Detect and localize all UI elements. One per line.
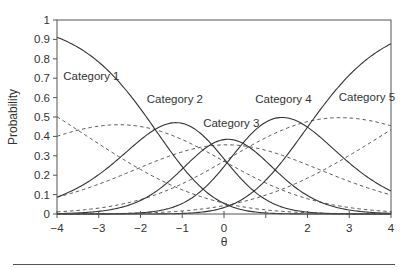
footer-divider — [13, 264, 395, 265]
probability-curves-chart: 00.10.20.30.40.50.60.70.80.91 −4−3−2−102… — [0, 0, 408, 270]
y-tick-label: 0.3 — [34, 150, 50, 162]
category-label-3: Category 3 — [203, 117, 259, 129]
y-tick-label: 0 — [44, 208, 50, 220]
y-tick-label: 0.7 — [34, 72, 50, 84]
x-tick-label: 3 — [346, 222, 352, 234]
y-tick-label: 0.6 — [34, 92, 50, 104]
x-tick-label: 4 — [388, 222, 395, 234]
y-tick-label: 0.1 — [34, 189, 50, 201]
solid-curve-category-3 — [57, 139, 391, 213]
category-label-1: Category 1 — [63, 70, 119, 82]
dashed-curve-category-4 — [57, 118, 391, 212]
solid-curve-category-4 — [57, 117, 391, 214]
x-tick-label: 2 — [304, 222, 310, 234]
dashed-curve-category-1 — [57, 117, 391, 214]
y-tick-label: 0.9 — [34, 33, 50, 45]
x-axis-title: θ — [221, 235, 228, 249]
category-label-4: Category 4 — [255, 93, 312, 105]
x-tick-label: −3 — [92, 222, 105, 234]
x-tick-label: −2 — [134, 222, 147, 234]
x-tick-label: −1 — [176, 222, 189, 234]
dashed-curves — [57, 117, 391, 214]
y-tick-label: 1 — [44, 14, 50, 26]
category-label-2: Category 2 — [147, 93, 203, 105]
x-tick-label: 0 — [221, 222, 227, 234]
dashed-curve-category-5 — [57, 130, 391, 214]
solid-curve-category-2 — [57, 123, 391, 214]
y-tick-label: 0.5 — [34, 111, 50, 123]
category-label-5: Category 5 — [339, 91, 395, 103]
y-tick-label: 0.8 — [34, 53, 50, 65]
y-tick-label: 0.4 — [34, 130, 51, 142]
y-axis-title: Probability — [6, 89, 20, 145]
dashed-curve-category-3 — [57, 145, 391, 197]
x-tick-label: −4 — [50, 222, 64, 234]
y-axis: 00.10.20.30.40.50.60.70.80.91 — [34, 14, 57, 220]
y-tick-label: 0.2 — [34, 169, 50, 181]
